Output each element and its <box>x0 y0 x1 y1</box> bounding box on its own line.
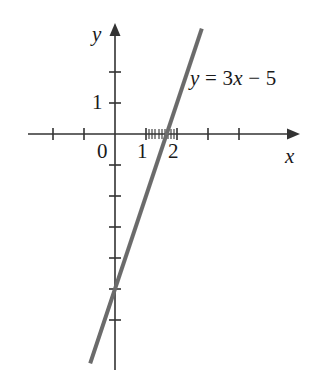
equation-minus-sign: − <box>248 66 260 90</box>
x-axis-arrowhead <box>287 129 300 140</box>
y-tick-label-1: 1 <box>92 92 103 113</box>
equation-slope-term: 3x <box>222 66 242 90</box>
x-tick-label-2: 2 <box>168 141 179 162</box>
equation-lhs: y <box>190 66 200 90</box>
x-tick-label-1: 1 <box>137 141 148 162</box>
equation-equals: = <box>205 66 217 90</box>
y-axis-label: y <box>92 24 101 45</box>
y-axis-arrowhead <box>110 23 121 36</box>
equation-annotation: y = 3x − 5 <box>190 68 276 89</box>
graph-figure: y x 0 1 2 1 y = 3x − 5 <box>0 0 320 385</box>
line-series-y-equals-3x-minus-5 <box>90 29 202 364</box>
equation-intercept-term: 5 <box>266 66 277 90</box>
x-axis-label: x <box>285 146 294 167</box>
plot-canvas <box>0 0 320 385</box>
origin-tick-label: 0 <box>97 141 108 162</box>
